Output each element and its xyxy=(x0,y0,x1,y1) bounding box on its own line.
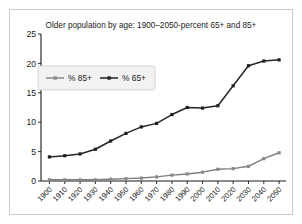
x-tick-label: 2030 xyxy=(235,185,253,203)
data-point-marker xyxy=(247,64,250,67)
x-tick-label: 1900 xyxy=(36,185,54,203)
data-point-marker xyxy=(124,177,127,180)
x-tick-label: 2020 xyxy=(219,185,237,203)
legend-marker-65plus xyxy=(107,76,110,79)
data-point-marker xyxy=(140,125,143,128)
series-line-85plus xyxy=(49,153,279,180)
y-tick-label: 10 xyxy=(26,117,36,127)
data-point-marker xyxy=(94,178,97,181)
x-tick-label: 2040 xyxy=(250,185,268,203)
data-point-marker xyxy=(94,148,97,151)
data-point-marker xyxy=(48,155,51,158)
x-tick-group: 1900191019201930194019501960197019801990… xyxy=(36,181,284,203)
data-point-marker xyxy=(63,154,66,157)
data-point-marker xyxy=(63,178,66,181)
x-tick-label: 1980 xyxy=(158,185,176,203)
chart-frame: Older population by age: 1900–2050-perce… xyxy=(9,9,293,215)
data-point-marker xyxy=(262,59,265,62)
x-tick-label: 2010 xyxy=(204,185,222,203)
data-point-marker xyxy=(278,58,281,61)
x-tick-label: 1990 xyxy=(173,185,191,203)
y-tick-label: 20 xyxy=(26,59,36,69)
y-tick-label: 25 xyxy=(26,29,36,39)
x-tick-label: 1950 xyxy=(112,185,130,203)
data-point-marker xyxy=(186,172,189,175)
line-chart: Older population by age: 1900–2050-perce… xyxy=(10,10,292,214)
data-point-marker xyxy=(262,157,265,160)
data-point-marker xyxy=(278,151,281,154)
data-point-marker xyxy=(155,122,158,125)
legend-label-65plus: % 65+ xyxy=(122,73,146,83)
data-point-marker xyxy=(232,167,235,170)
data-point-marker xyxy=(170,174,173,177)
data-point-marker xyxy=(155,175,158,178)
data-point-marker xyxy=(78,178,81,181)
data-point-marker xyxy=(186,106,189,109)
x-tick-label: 1940 xyxy=(97,185,115,203)
data-point-marker xyxy=(109,178,112,181)
x-tick-label: 2000 xyxy=(189,185,207,203)
x-tick-label: 1910 xyxy=(51,185,69,203)
chart-title: Older population by age: 1900–2050-perce… xyxy=(46,21,257,30)
data-point-marker xyxy=(216,168,219,171)
data-point-marker xyxy=(170,113,173,116)
data-point-marker xyxy=(48,178,51,181)
x-tick-label: 1920 xyxy=(66,185,84,203)
x-tick-label: 2050 xyxy=(265,185,283,203)
x-tick-label: 1930 xyxy=(81,185,99,203)
y-tick-label: 15 xyxy=(26,88,36,98)
data-point-marker xyxy=(201,106,204,109)
data-point-marker xyxy=(124,132,127,135)
x-tick-label: 1960 xyxy=(127,185,145,203)
y-tick-label: 0 xyxy=(31,176,36,186)
x-tick-label: 1970 xyxy=(143,185,161,203)
data-point-marker xyxy=(140,176,143,179)
data-point-marker xyxy=(78,152,81,155)
legend-marker-85plus xyxy=(53,76,56,79)
data-point-marker xyxy=(201,171,204,174)
data-point-marker xyxy=(232,84,235,87)
data-point-marker xyxy=(216,104,219,107)
data-point-marker xyxy=(247,165,250,168)
data-point-marker xyxy=(109,139,112,142)
chart-figure: Older population by age: 1900–2050-perce… xyxy=(0,0,302,224)
chart-legend: % 85+% 65+ xyxy=(38,66,155,90)
legend-label-85plus: % 85+ xyxy=(68,73,92,83)
y-tick-group: 0510152025 xyxy=(26,29,41,186)
y-tick-label: 5 xyxy=(31,147,36,157)
